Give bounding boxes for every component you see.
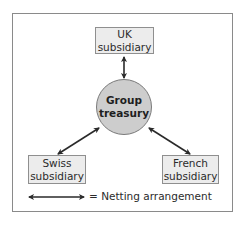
swiss-subsidiary-node: Swiss subsidiary xyxy=(28,155,86,184)
uk-subsidiary-label-line2: subsidiary xyxy=(98,41,152,54)
group-treasury-node: Group treasury xyxy=(96,79,152,135)
swiss-subsidiary-label-line2: subsidiary xyxy=(30,170,84,183)
legend-label: = Netting arrangement xyxy=(89,190,212,203)
swiss-subsidiary-label-line1: Swiss xyxy=(42,157,71,170)
french-subsidiary-label-line2: subsidiary xyxy=(164,170,218,183)
group-treasury-label-line1: Group xyxy=(106,94,142,107)
french-subsidiary-label-line1: French xyxy=(173,157,208,170)
uk-subsidiary-label-line1: UK xyxy=(117,28,132,41)
french-subsidiary-node: French subsidiary xyxy=(162,155,219,184)
group-treasury-label-line2: treasury xyxy=(99,107,149,120)
uk-subsidiary-node: UK subsidiary xyxy=(95,27,154,54)
